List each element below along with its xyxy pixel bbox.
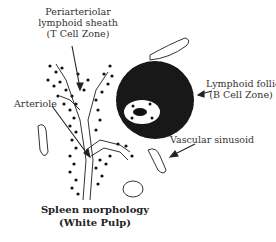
pals-label-line3: (T Cell Zone) [38, 28, 118, 39]
figure-caption: Spleen morphology (White Pulp) [40, 203, 150, 229]
caption-line1: Spleen morphology [40, 203, 150, 216]
sinusoid-label: Vascular sinusoid [170, 134, 254, 145]
caption-line2: (White Pulp) [40, 216, 150, 229]
arteriole-vessel [56, 64, 130, 200]
lymphoid-follicle [116, 61, 194, 139]
arteriole-label: Arteriole [14, 98, 57, 109]
follicle-label-line2: (B Cell Zone) [206, 89, 276, 100]
follicle-label: Lymphoid follicle (B Cell Zone) [206, 78, 276, 100]
follicle-label-line1: Lymphoid follicle [206, 78, 276, 89]
pals-label-line2: lymphoid sheath [38, 17, 118, 28]
pals-label: Periarteriolar lymphoid sheath (T Cell Z… [38, 6, 118, 39]
pals-label-line1: Periarteriolar [38, 6, 118, 17]
